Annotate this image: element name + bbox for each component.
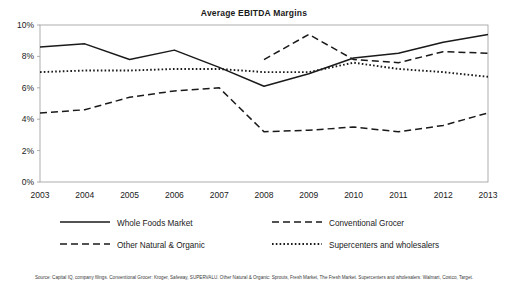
x-tick-label: 2009 [299,190,318,200]
x-tick-label: 2005 [120,190,139,200]
chart-series-group [40,34,488,131]
y-tick-label: 10% [17,20,34,30]
chart-legend: Whole Foods MarketConventional GrocerOth… [60,219,439,250]
series-line [264,34,488,62]
y-tick-label: 6% [22,83,35,93]
series-line [40,88,488,132]
x-tick-label: 2011 [389,190,408,200]
x-tick-label: 2012 [434,190,453,200]
y-tick-label: 0% [22,177,35,187]
legend-label: Whole Foods Market [117,219,193,228]
legend-label: Other Natural & Organic [117,241,205,250]
y-tick-label: 4% [22,114,35,124]
y-tick-label: 2% [22,146,35,156]
x-axis-tick-labels: 2003200420052006200720082009201020112012… [31,190,498,200]
x-tick-label: 2010 [344,190,363,200]
chart-container: 0%2%4%6%8%10% 20032004200520062007200820… [0,0,508,281]
legend-label: Supercenters and wholesalers [329,241,439,250]
x-tick-label: 2013 [479,190,498,200]
y-tick-label: 8% [22,51,35,61]
legend-label: Conventional Grocer [329,219,404,228]
x-tick-label: 2006 [165,190,184,200]
footnote: Source: Capital IQ, company filings. Con… [0,275,508,280]
series-line [40,34,488,86]
y-axis-tick-labels: 0%2%4%6%8%10% [17,20,40,187]
line-chart: 0%2%4%6%8%10% 20032004200520062007200820… [0,0,508,281]
x-tick-label: 2004 [75,190,94,200]
x-tick-label: 2003 [31,190,50,200]
x-tick-label: 2007 [210,190,229,200]
series-line [40,63,488,77]
x-tick-label: 2008 [255,190,274,200]
